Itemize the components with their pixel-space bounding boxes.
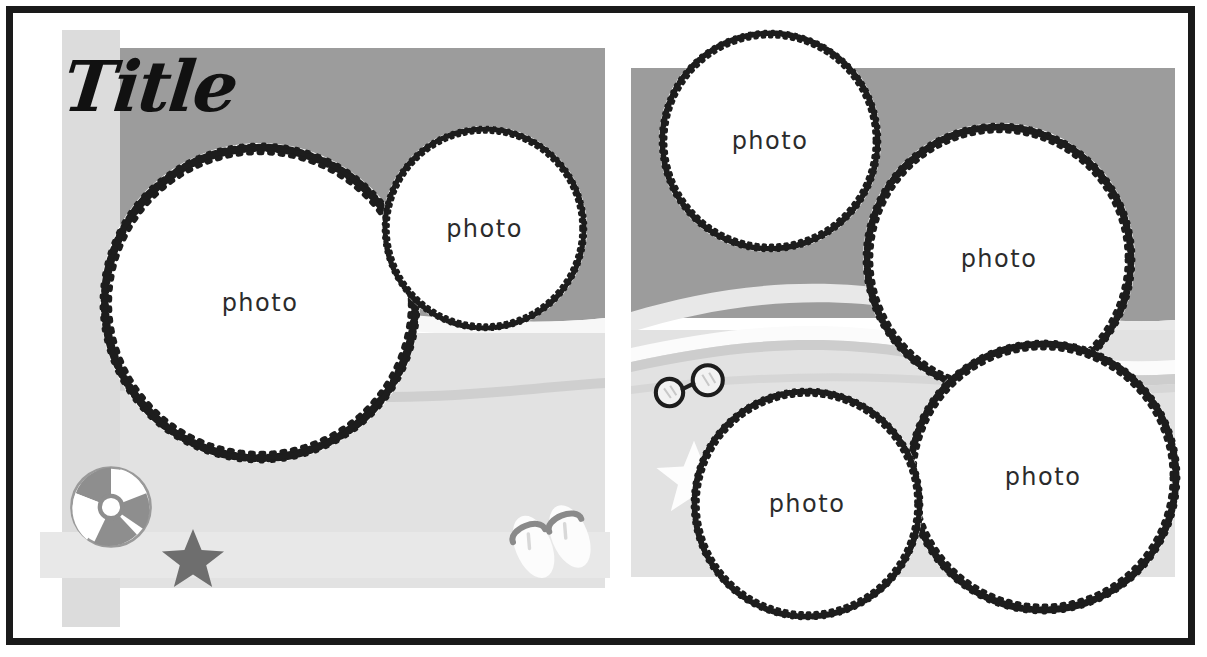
- right-page[interactable]: photo photo photo photo: [631, 68, 1175, 577]
- page-title: Title: [60, 52, 240, 122]
- left-page-vertical-stripe-lower: [62, 578, 120, 627]
- photo-label: photo: [961, 245, 1038, 273]
- photo-circle-right-bottom-right[interactable]: photo: [906, 340, 1180, 614]
- sunglasses-icon: [649, 360, 731, 410]
- photo-label: photo: [222, 289, 299, 317]
- photo-label: photo: [446, 215, 523, 243]
- photo-label: photo: [1005, 463, 1082, 491]
- flip-flops-icon: [500, 495, 605, 590]
- scrapbook-canvas: photo photo Title: [0, 0, 1207, 657]
- beach-ball-icon: [68, 464, 154, 550]
- photo-circle-left-large[interactable]: photo: [100, 143, 420, 463]
- photo-label: photo: [769, 490, 846, 518]
- star-icon: [159, 525, 227, 591]
- photo-label: photo: [732, 127, 809, 155]
- photo-circle-right-top-left[interactable]: photo: [659, 30, 881, 252]
- photo-circle-right-bottom-left[interactable]: photo: [691, 388, 923, 620]
- photo-circle-left-small[interactable]: photo: [382, 126, 587, 331]
